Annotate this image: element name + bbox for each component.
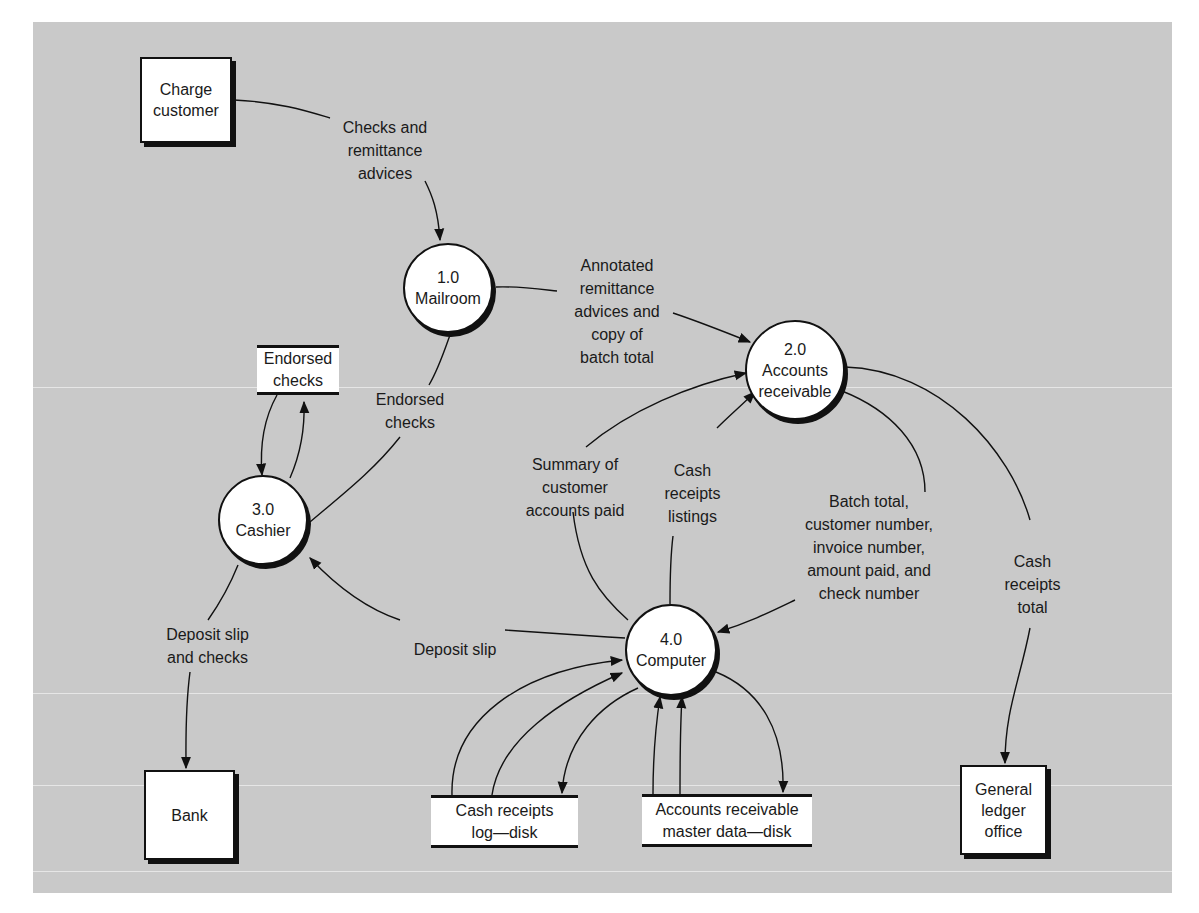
flow-label-endorsed-checks: Endorsed checks xyxy=(360,388,460,434)
process-number: 3.0 xyxy=(252,499,274,520)
flow-label-cash-receipts-total: Cash receipts total xyxy=(995,550,1070,619)
process-label: Accounts receivable xyxy=(759,360,832,402)
flow-checks-remittance xyxy=(234,100,330,118)
flow-label-deposit-slip: Deposit slip xyxy=(400,638,510,661)
entity-general-ledger-office: General ledger office xyxy=(960,765,1047,855)
process-accounts-receivable: 2.0 Accounts receivable xyxy=(745,320,845,420)
datastore-endorsed-checks: Endorsed checks xyxy=(257,345,339,395)
flow-label-annotated-advices: Annotated remittance advices and copy of… xyxy=(552,254,682,369)
process-cashier: 3.0 Cashier xyxy=(218,475,308,565)
flow-label-batch-total: Batch total, customer number, invoice nu… xyxy=(788,490,950,605)
flow-label-summary-accounts-paid: Summary of customer accounts paid xyxy=(510,453,640,522)
entity-bank: Bank xyxy=(144,770,235,860)
process-label: Mailroom xyxy=(415,288,481,309)
flow-label-checks-remittance: Checks and remittance advices xyxy=(325,116,445,185)
datastore-cash-receipts-log: Cash receipts log—disk xyxy=(431,795,578,848)
entity-charge-customer: Charge customer xyxy=(140,57,232,143)
datastore-ar-master-data: Accounts receivable master data—disk xyxy=(642,794,812,847)
flow-label-cash-receipts-listings: Cash receipts listings xyxy=(655,459,730,528)
process-mailroom: 1.0 Mailroom xyxy=(403,243,493,333)
process-computer: 4.0 Computer xyxy=(625,604,717,696)
flow-annotated-advices xyxy=(496,287,557,291)
process-label: Cashier xyxy=(235,520,290,541)
flow-label-deposit-slip-checks: Deposit slip and checks xyxy=(150,623,265,669)
process-number: 2.0 xyxy=(784,339,806,360)
process-number: 1.0 xyxy=(437,267,459,288)
process-label: Computer xyxy=(636,650,706,671)
process-number: 4.0 xyxy=(660,629,682,650)
